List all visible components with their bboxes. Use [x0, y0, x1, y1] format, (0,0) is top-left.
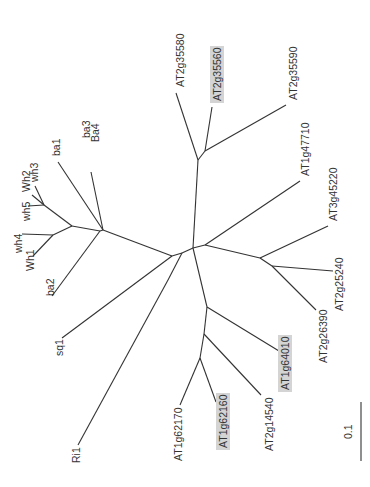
leaf-label-Ri1: Ri1	[70, 447, 82, 463]
branch-ba2	[52, 231, 100, 296]
leaf-label-AT2g35580: AT2g35580	[174, 33, 186, 87]
branch-AT2g25240	[272, 266, 333, 271]
leaf-label-wh5: wh5	[20, 202, 32, 222]
branch-wh3	[35, 186, 44, 205]
branch-wh-node	[100, 230, 103, 231]
branch-center	[182, 248, 193, 253]
branch-Wh1	[33, 235, 53, 256]
tree-labels: AT2g35580 AT2g35560 AT2g35590 AT1g47710 …	[12, 33, 345, 463]
branch-Ri1	[78, 280, 168, 445]
leaf-label-AT2g25240: AT2g25240	[333, 257, 345, 311]
branch-AT2g26390	[272, 266, 316, 310]
branch-AT1g47710	[205, 181, 300, 245]
branch-sq1	[62, 256, 172, 338]
leaf-label-AT2g14540: AT2g14540	[263, 397, 275, 451]
branch-AT1g621-inner	[200, 334, 204, 358]
scale-bar: 0.1	[342, 402, 361, 461]
tree-branches	[22, 93, 333, 445]
branch-AT3g45220-stem	[205, 245, 260, 258]
branch-wh-inner	[72, 226, 100, 231]
leaf-label-Wh1: Wh1	[24, 249, 36, 271]
branch-wh4	[22, 234, 53, 235]
leaf-label-ba2: ba2	[44, 278, 56, 296]
leaf-label-sq1: sq1	[53, 339, 65, 356]
leaf-label-AT1g64010: AT1g64010	[279, 336, 291, 390]
branch-center-right	[193, 245, 205, 248]
branch-wh-clade-stem	[103, 230, 172, 256]
leaf-label-AT1g47710: AT1g47710	[299, 122, 311, 176]
leaf-label-AT2g26390: AT2g26390	[317, 309, 329, 363]
branch-AT1g6-stem	[193, 248, 207, 307]
branch-AT2g35560	[205, 107, 212, 151]
branch-AT2g2-inner	[260, 258, 272, 266]
branch-AT1g62160	[200, 358, 216, 402]
leaf-label-wh3: wh3	[28, 163, 40, 183]
leaf-label-wh4: wh4	[12, 234, 24, 254]
scale-bar-label: 0.1	[342, 424, 354, 439]
leaf-label-ba1: ba1	[50, 138, 62, 156]
branch-AT2g355-stem	[193, 160, 198, 248]
branch-wh-upper	[44, 205, 72, 226]
leaf-label-AT1g62170: AT1g62170	[172, 407, 184, 461]
branch-AT2g355-inner	[198, 151, 205, 160]
leaf-label-AT3g45220: AT3g45220	[327, 167, 339, 221]
branch-AT2g14540	[204, 334, 261, 395]
branch-AT1g6-inner	[204, 307, 207, 334]
branch-wh-lower	[53, 226, 72, 235]
branch-AT2g35590	[205, 105, 286, 151]
branch-AT1g62170	[180, 358, 200, 405]
leaf-label-Ba4: Ba4	[89, 123, 101, 142]
phylogenetic-tree: AT2g35580 AT2g35560 AT2g35590 AT1g47710 …	[0, 0, 370, 487]
branch-AT2g35580	[176, 93, 198, 160]
leaf-label-AT1g62160: AT1g62160	[217, 394, 229, 448]
branch-AT1g64010	[207, 307, 279, 351]
branch-AT3g45220	[260, 226, 328, 258]
leaf-label-AT2g35560: AT2g35560	[211, 47, 223, 101]
leaf-label-AT2g35590: AT2g35590	[287, 46, 299, 100]
